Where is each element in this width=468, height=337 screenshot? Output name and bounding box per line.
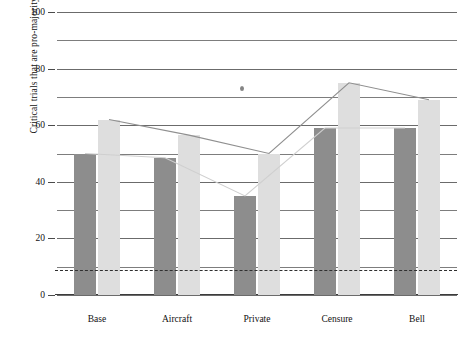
y-tick-label-20: 20 — [36, 233, 46, 243]
y-tick-80 — [48, 69, 55, 70]
x-label-bell: Bell — [409, 314, 425, 324]
x-label-private: Private — [244, 314, 271, 324]
y-axis-title: Critical trials that are pro-majority (p… — [29, 0, 39, 171]
y-tick-label-40: 40 — [36, 177, 46, 187]
x-label-base: Base — [88, 314, 106, 324]
y-tick-60 — [48, 125, 55, 126]
x-label-censure: Censure — [321, 314, 352, 324]
gridline-0 — [57, 295, 457, 296]
y-tick-label-0: 0 — [40, 290, 45, 300]
chart-figure: Critical trials that are pro-majority (p… — [0, 0, 468, 337]
y-tick-100 — [48, 12, 55, 13]
y-tick-label-80: 80 — [36, 64, 46, 74]
y-tick-40 — [48, 182, 55, 183]
y-tick-label-60: 60 — [36, 120, 46, 130]
y-tick-0 — [48, 295, 55, 296]
scan-speck — [240, 86, 244, 91]
plot-area: 020406080100 BaseAircraftPrivateCensureB… — [57, 12, 457, 295]
x-label-aircraft: Aircraft — [162, 314, 192, 324]
trend-line-layer — [57, 12, 457, 295]
y-tick-20 — [48, 238, 55, 239]
y-tick-label-100: 100 — [31, 7, 45, 17]
